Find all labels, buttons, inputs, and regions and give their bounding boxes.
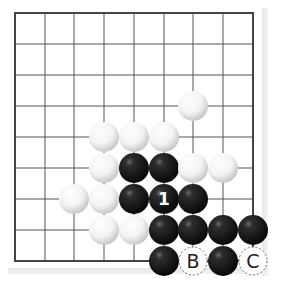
white-stone xyxy=(119,215,149,245)
black-stone xyxy=(238,215,268,245)
point-marker-b: B xyxy=(179,247,207,275)
white-stone xyxy=(208,153,238,183)
black-stone: 1 xyxy=(149,184,179,214)
white-stone xyxy=(89,153,119,183)
white-stone xyxy=(149,122,179,152)
marker-label: C xyxy=(246,250,259,272)
point-marker-c: C xyxy=(239,247,267,275)
white-stone xyxy=(89,184,119,214)
marker-label: B xyxy=(186,250,199,272)
black-stone xyxy=(149,215,179,245)
black-stone xyxy=(178,184,208,214)
white-stone xyxy=(178,153,208,183)
black-stone xyxy=(208,215,238,245)
go-board: 1 BC xyxy=(0,0,282,285)
black-stone xyxy=(149,153,179,183)
white-stone xyxy=(89,215,119,245)
white-stone xyxy=(119,122,149,152)
white-stone xyxy=(178,91,208,121)
white-stone xyxy=(89,122,119,152)
white-stone xyxy=(59,184,89,214)
black-stone xyxy=(119,153,149,183)
black-stone xyxy=(178,215,208,245)
move-number-label: 1 xyxy=(158,189,170,209)
black-stone xyxy=(119,184,149,214)
black-stone xyxy=(208,246,238,276)
black-stone xyxy=(149,246,179,276)
